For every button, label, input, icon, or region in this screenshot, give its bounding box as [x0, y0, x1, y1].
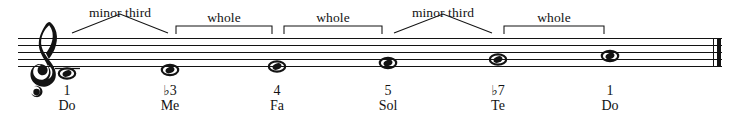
degree-label-note-5: ♭7	[468, 84, 528, 98]
solfege-label-note-3: Fa	[247, 99, 307, 113]
solfege-label-note-4: Sol	[358, 99, 418, 113]
bracket-interval-2	[176, 26, 272, 34]
degree-label-note-2: ♭3	[140, 84, 200, 98]
interval-label-3: whole	[283, 11, 383, 25]
note-group	[55, 51, 618, 79]
degree-label-note-1: 1	[37, 84, 97, 98]
interval-label-2: whole	[174, 11, 274, 25]
degree-label-note-6: 1	[580, 84, 640, 98]
solfege-label-note-5: Te	[468, 99, 528, 113]
solfege-label-note-6: Do	[580, 99, 640, 113]
note-head-inner-note-5	[493, 55, 504, 64]
barline-thick	[717, 38, 721, 67]
note-1	[55, 68, 80, 78]
degree-label-note-3: 4	[247, 84, 307, 98]
solfege-label-note-2: Me	[140, 99, 200, 113]
interval-label-4: minor third	[383, 6, 503, 20]
music-notation-figure: minor third whole whole minor third whol…	[0, 0, 738, 117]
interval-label-1: minor third	[60, 6, 180, 20]
bracket-interval-5	[504, 26, 604, 34]
bracket-interval-3	[284, 26, 382, 34]
note-head-inner-note-3	[272, 62, 283, 71]
note-head-inner-note-1	[62, 69, 73, 78]
interval-label-5: whole	[504, 11, 604, 25]
degree-label-note-4: 5	[358, 84, 418, 98]
solfege-label-note-1: Do	[37, 99, 97, 113]
